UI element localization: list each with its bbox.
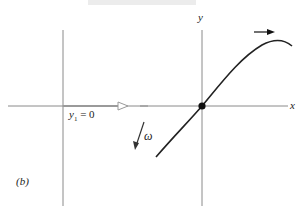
propagation-arrow-icon xyxy=(254,29,275,35)
origin-point xyxy=(198,102,205,109)
rotation-arrow-icon xyxy=(133,122,144,150)
equation-label: y1 = 0 xyxy=(69,109,95,123)
diagram-canvas xyxy=(0,0,307,216)
omega-label: ω xyxy=(144,130,152,142)
x-axis-label: x xyxy=(290,100,295,111)
panel-label: (b) xyxy=(16,176,29,187)
y-axis-label: y xyxy=(198,12,203,23)
wave-curve xyxy=(156,41,292,157)
